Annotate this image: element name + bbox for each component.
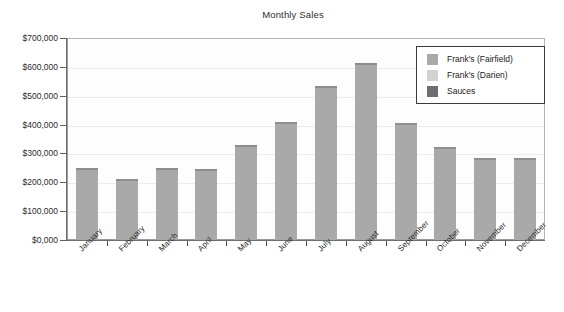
y-axis-tick-label: $600,000 [0,62,58,72]
y-axis-tick [60,240,67,241]
legend-item: Frank's (Fairfield) [427,51,544,67]
bar [275,122,297,240]
gridline [68,126,544,127]
x-axis-tick [346,241,347,246]
y-axis-tick-label: $500,000 [0,91,58,101]
x-axis-tick [107,241,108,246]
y-axis-tick-label: $200,000 [0,177,58,187]
bar [195,169,217,240]
x-axis-tick [266,241,267,246]
bar [156,168,178,240]
chart-legend: Frank's (Fairfield)Frank's (Darien)Sauce… [416,46,545,104]
chart-title: Monthly Sales [0,9,564,20]
y-axis-tick [60,211,67,212]
x-axis-tick [505,241,506,246]
y-axis-tick-label: $0,000 [0,235,58,245]
y-axis-tick-label: $100,000 [0,206,58,216]
x-axis-tick [226,241,227,246]
gridline [68,154,544,155]
gridline [68,183,544,184]
legend-swatch [427,54,438,65]
y-axis-tick [60,96,67,97]
y-axis-tick-label: $400,000 [0,120,58,130]
chart-title-text: Monthly Sales [262,9,324,20]
y-axis-tick-label: $700,000 [0,33,58,43]
bar [395,123,417,240]
legend-item: Sauces [427,83,544,99]
y-axis-tick [60,182,67,183]
y-axis-labels: $0,000$100,000$200,000$300,000$400,000$5… [0,0,58,312]
y-axis-tick-label: $300,000 [0,148,58,158]
y-axis-tick [60,125,67,126]
x-axis-tick [465,241,466,246]
x-axis-tick [147,241,148,246]
gridline [68,212,544,213]
legend-swatch [427,70,438,81]
x-axis-tick [306,241,307,246]
x-axis-tick [187,241,188,246]
x-axis-tick [386,241,387,246]
bar [235,145,257,240]
legend-label: Frank's (Darien) [447,70,508,80]
legend-label: Frank's (Fairfield) [447,54,513,64]
bar [434,147,456,240]
legend-label: Sauces [447,86,475,96]
bar [355,63,377,240]
y-axis-tick [60,38,67,39]
x-axis-tick [426,241,427,246]
y-axis-tick [60,67,67,68]
bar [315,86,337,240]
monthly-sales-chart: Monthly Sales $0,000$100,000$200,000$300… [0,0,564,312]
legend-item: Frank's (Darien) [427,67,544,83]
y-axis-tick [60,153,67,154]
legend-swatch [427,86,438,97]
